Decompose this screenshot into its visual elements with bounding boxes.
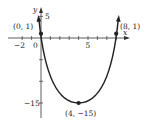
parabola-curve-main	[39, 21, 118, 103]
point-label-right: (8, 1)	[120, 22, 140, 31]
y-axis-arrow-icon	[39, 7, 43, 13]
tick-label-5y: 5	[45, 12, 50, 21]
tick-label-neg15: −15	[24, 99, 40, 108]
vertex-point	[77, 101, 81, 105]
tick-label-0: 0	[33, 41, 38, 50]
y-axis-label: y	[32, 5, 38, 14]
tick-label-neg2: −2	[14, 41, 25, 50]
curve-right-arrow-icon	[116, 15, 121, 22]
tick-label-5x: 5	[86, 41, 91, 50]
point-8-1	[114, 32, 118, 36]
point-label-left: (0, 1)	[13, 22, 33, 31]
point-0-1	[39, 32, 43, 36]
parabola-graph: y x −2 0 5 5 −15 (0, 1) (8, 1) (4, −15)	[0, 0, 148, 122]
vertex-label: (4, −15)	[65, 109, 96, 118]
